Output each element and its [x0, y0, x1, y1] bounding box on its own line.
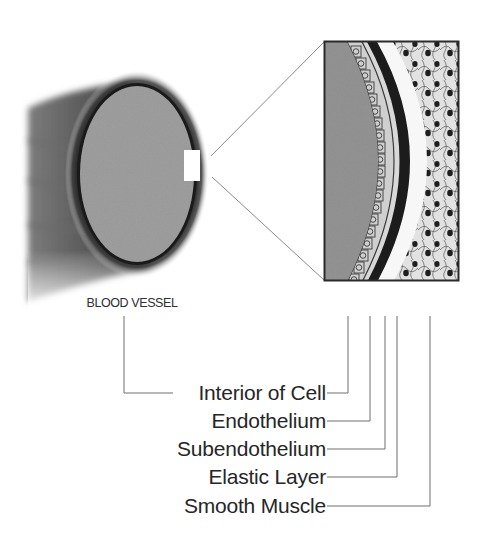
magnified-wall-inset [325, 40, 459, 285]
sample-region-marker [184, 150, 200, 181]
blood-vessel-diagram: BLOOD VESSEL Interior of Cell Endotheliu… [0, 0, 483, 557]
blood-vessel-caption: BLOOD VESSEL [62, 296, 202, 310]
label-elastic-layer: Elastic Layer [208, 465, 326, 489]
label-smooth-muscle: Smooth Muscle [184, 494, 326, 518]
label-interior-of-cell: Interior of Cell [198, 381, 326, 405]
label-subendothelium: Subendothelium [177, 437, 326, 461]
zoom-projection-lines [211, 42, 324, 280]
label-endothelium: Endothelium [211, 409, 326, 433]
